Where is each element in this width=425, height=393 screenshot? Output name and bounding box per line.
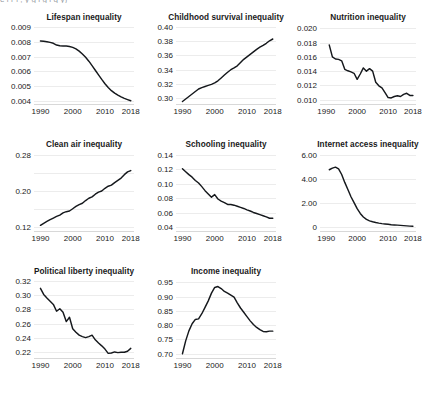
x-tick-label: 1990: [174, 361, 192, 370]
x-tick-label: 1990: [317, 234, 335, 243]
data-series-line: [176, 278, 276, 358]
data-series-line: [176, 24, 276, 104]
y-tick-label: 0.018: [297, 38, 317, 47]
panel-title: Childhood survival inequality: [146, 13, 306, 22]
x-tick-label: 2010: [96, 234, 114, 243]
x-axis-line: [34, 104, 134, 105]
y-tick-label: 0.95: [157, 278, 173, 287]
plot-area: 0.0040.0050.0060.0070.0080.0091990200020…: [34, 24, 134, 104]
y-tick-label: 0.14: [157, 150, 173, 159]
x-tick-label: 1990: [317, 107, 335, 116]
plot-area: 0.0100.0120.0140.0160.0180.0201990200020…: [320, 24, 416, 104]
y-tick-label: 0.22: [15, 348, 31, 357]
x-axis-line: [34, 231, 134, 232]
data-series-line: [320, 151, 416, 231]
x-tick-label: 1990: [174, 107, 192, 116]
x-axis-line: [176, 104, 276, 105]
y-tick-label: 0.06: [157, 208, 173, 217]
y-tick-label: 0.20: [15, 187, 31, 196]
x-tick-label: 2000: [64, 361, 82, 370]
x-axis-line: [320, 231, 416, 232]
y-tick-label: 0.010: [297, 95, 317, 104]
x-tick-label: 2018: [264, 234, 282, 243]
panel-title: Nutrition inequality: [290, 13, 425, 22]
x-tick-label: 2018: [122, 234, 140, 243]
plot-area: 0.220.240.260.280.300.321990200020102018: [34, 278, 134, 358]
data-series-line: [176, 151, 276, 231]
x-tick-label: 2000: [206, 234, 224, 243]
x-tick-label: 2000: [206, 107, 224, 116]
y-tick-label: 0.009: [11, 22, 31, 31]
y-tick-label: 0.36: [157, 51, 173, 60]
y-tick-label: 0.004: [11, 97, 31, 106]
y-tick-label: 0.85: [157, 306, 173, 315]
plot-area: 0.040.060.080.100.120.141990200020102018: [176, 151, 276, 231]
panel-title: Political liberty inequality: [4, 267, 164, 276]
y-tick-label: 0.006: [11, 67, 31, 76]
x-axis-line: [176, 231, 276, 232]
y-tick-label: 0.08: [157, 194, 173, 203]
plot-area: 0.700.750.800.850.900.951990200020102018: [176, 278, 276, 358]
x-tick-label: 2010: [96, 361, 114, 370]
y-tick-label: 0.75: [157, 335, 173, 344]
x-tick-label: 2018: [404, 234, 422, 243]
panel-title: Income inequality: [146, 267, 306, 276]
y-tick-label: 0.32: [157, 80, 173, 89]
y-tick-label: 0.24: [15, 334, 31, 343]
x-tick-label: 2010: [379, 107, 397, 116]
x-tick-label: 2018: [122, 361, 140, 370]
panel-title: Schooling inequality: [146, 140, 306, 149]
y-tick-label: 0.40: [157, 22, 173, 31]
y-tick-label: 0.26: [15, 319, 31, 328]
x-axis-line: [34, 358, 134, 359]
y-tick-label: 0.014: [297, 67, 317, 76]
y-tick-label: 0.04: [157, 223, 173, 232]
x-tick-label: 1990: [32, 234, 50, 243]
y-tick-label: 2.00: [301, 198, 317, 207]
x-tick-label: 2000: [64, 107, 82, 116]
y-tick-label: 0.80: [157, 321, 173, 330]
panel-title: Lifespan inequality: [4, 13, 164, 22]
y-tick-label: 0.90: [157, 292, 173, 301]
x-tick-label: 2000: [206, 361, 224, 370]
x-axis-line: [176, 358, 276, 359]
x-tick-label: 2010: [238, 107, 256, 116]
plot-area: 02.004.006.001990200020102018: [320, 151, 416, 231]
y-tick-label: 0.34: [157, 65, 173, 74]
x-tick-label: 2018: [122, 107, 140, 116]
x-tick-label: 2010: [238, 234, 256, 243]
x-tick-label: 1990: [174, 234, 192, 243]
y-tick-label: 0.020: [297, 24, 317, 33]
panel-title: Clean air inequality: [4, 140, 164, 149]
y-tick-label: 0.007: [11, 52, 31, 61]
y-tick-label: 6.00: [301, 151, 317, 160]
y-tick-label: 0.38: [157, 37, 173, 46]
y-tick-label: 0.12: [15, 223, 31, 232]
x-tick-label: 2010: [96, 107, 114, 116]
data-series-line: [34, 24, 134, 104]
x-tick-label: 2010: [379, 234, 397, 243]
x-tick-label: 2018: [404, 107, 422, 116]
y-tick-label: 0.70: [157, 349, 173, 358]
y-tick-label: 0.30: [15, 291, 31, 300]
figure-root: e i r i , y g l g l q y) Lifespan inequa…: [0, 0, 425, 393]
y-tick-label: 0.32: [15, 276, 31, 285]
panel-title: Internet access inequality: [290, 140, 425, 149]
x-tick-label: 1990: [32, 361, 50, 370]
x-tick-label: 2010: [238, 361, 256, 370]
y-tick-label: 0: [313, 222, 317, 231]
data-series-line: [320, 24, 416, 104]
cropped-top-caption: e i r i , y g l g l q y): [0, 0, 425, 3]
y-tick-label: 0.30: [157, 94, 173, 103]
data-series-line: [34, 278, 134, 358]
x-axis-line: [320, 104, 416, 105]
data-series-line: [34, 151, 134, 231]
y-tick-label: 0.28: [15, 150, 31, 159]
y-tick-label: 0.005: [11, 82, 31, 91]
y-tick-label: 0.016: [297, 52, 317, 61]
x-tick-label: 2000: [348, 234, 366, 243]
y-tick-label: 0.28: [15, 305, 31, 314]
y-tick-label: 0.012: [297, 81, 317, 90]
x-tick-label: 2018: [264, 361, 282, 370]
x-tick-label: 2000: [64, 234, 82, 243]
